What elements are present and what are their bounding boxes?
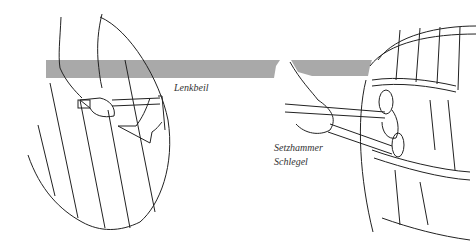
label-schlegel: Schlegel [274, 156, 308, 168]
label-setzhammer: Setzhammer [274, 142, 323, 154]
cooperage-illustration: Lenkbeil Setzhammer Schlegel [0, 0, 476, 248]
label-lenkbeil: Lenkbeil [174, 82, 208, 94]
gray-band [46, 60, 372, 78]
right-barrel [285, 26, 476, 240]
line-drawing [0, 0, 476, 248]
left-stave-vignette [28, 14, 170, 230]
